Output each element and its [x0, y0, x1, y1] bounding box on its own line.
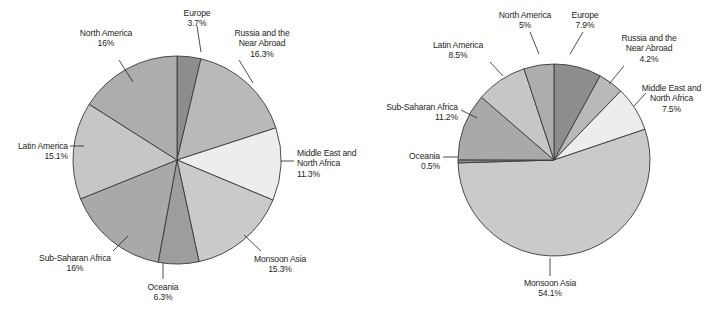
- slice-label: Middle East andNorth Africa11.3%: [297, 148, 381, 179]
- label-leader-line: [197, 26, 201, 52]
- pie-chart-figure: Europe3.7%Russia and theNear Abroad16.3%…: [0, 0, 709, 312]
- slice-label: Latin America15.1%: [6, 141, 68, 162]
- slice-label-percent: 16%: [68, 38, 144, 48]
- slice-label-percent: 7.5%: [634, 104, 709, 114]
- slice-label: North America16%: [68, 28, 144, 49]
- label-leader-line: [609, 66, 624, 84]
- slice-label-percent: 7.9%: [557, 20, 613, 30]
- slice-label-percent: 4.2%: [610, 54, 688, 64]
- slice-label: Oceania6.3%: [136, 282, 190, 303]
- slice-label-percent: 6.3%: [136, 292, 190, 302]
- slice-label: Oceania0.5%: [390, 151, 440, 172]
- slice-label-name: Near Abroad: [610, 43, 688, 53]
- slice-label-name: Monsoon Asia: [510, 278, 590, 288]
- slice-label-percent: 0.5%: [390, 161, 440, 171]
- slice-label-name: Middle East and: [634, 83, 709, 93]
- slice-label: Russia and theNear Abroad4.2%: [610, 33, 688, 64]
- slice-label-name: North Africa: [634, 93, 709, 103]
- slice-label-percent: 54.1%: [510, 288, 590, 298]
- slice-label: Europe3.7%: [166, 8, 228, 29]
- label-leader-line: [530, 32, 539, 54]
- slice-label-name: Latin America: [420, 40, 496, 50]
- slice-label-name: Sub-Saharan Africa: [30, 253, 120, 263]
- slice-label-percent: 3.7%: [166, 18, 228, 28]
- slice-label-percent: 16.3%: [223, 49, 301, 59]
- slice-label: Middle East andNorth Africa7.5%: [634, 83, 709, 114]
- slice-label-name: Oceania: [136, 282, 190, 292]
- slice-label: Monsoon Asia15.3%: [247, 254, 313, 275]
- slice-label: Sub-Saharan Africa11.2%: [368, 102, 458, 123]
- label-leader-line: [490, 62, 503, 76]
- slice-label-name: Russia and the: [223, 28, 301, 38]
- slice-label-percent: 15.1%: [6, 151, 68, 161]
- label-leader-line: [244, 235, 261, 251]
- slice-label-name: Monsoon Asia: [247, 254, 313, 264]
- slice-label: Russia and theNear Abroad16.3%: [223, 28, 301, 59]
- slice-label: Sub-Saharan Africa16%: [30, 253, 120, 274]
- pie-right: [443, 32, 650, 276]
- slice-label-name: North America: [68, 28, 144, 38]
- label-leader-line: [570, 32, 583, 54]
- slice-label: Europe7.9%: [557, 10, 613, 31]
- slice-label-name: Latin America: [6, 141, 68, 151]
- slice-label-name: Europe: [557, 10, 613, 20]
- pie-left: [70, 26, 294, 279]
- slice-label: Monsoon Asia54.1%: [510, 278, 590, 299]
- slice-label-name: Sub-Saharan Africa: [368, 102, 458, 112]
- slice-label: North America5%: [487, 10, 563, 31]
- slice-label: Latin America8.5%: [420, 40, 496, 61]
- slice-label-percent: 8.5%: [420, 50, 496, 60]
- slice-label-percent: 5%: [487, 20, 563, 30]
- slice-label-percent: 16%: [30, 263, 120, 273]
- slice-label-percent: 15.3%: [247, 264, 313, 274]
- slice-label-name: Russia and the: [610, 33, 688, 43]
- slice-label-name: Near Abroad: [223, 38, 301, 48]
- slice-label-percent: 11.2%: [368, 112, 458, 122]
- slice-label-name: Europe: [166, 8, 228, 18]
- slice-label-name: North Africa: [297, 158, 381, 168]
- slice-label-name: North America: [487, 10, 563, 20]
- slice-label-name: Oceania: [390, 151, 440, 161]
- slice-label-percent: 11.3%: [297, 169, 381, 179]
- slice-label-name: Middle East and: [297, 148, 381, 158]
